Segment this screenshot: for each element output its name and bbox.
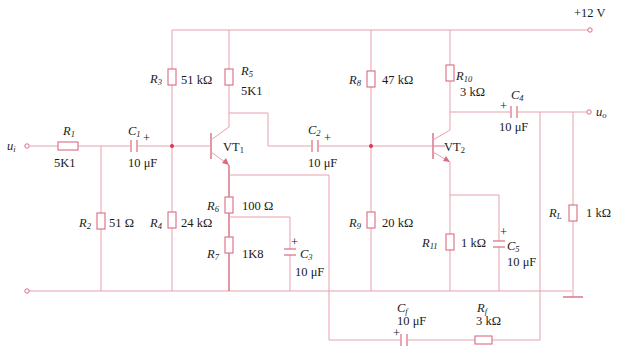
resistor-r7 bbox=[225, 237, 233, 253]
c2-plus: + bbox=[324, 131, 331, 145]
r2-value: 51 Ω bbox=[109, 216, 134, 230]
r10-value: 3 kΩ bbox=[460, 85, 485, 99]
c1-plus: + bbox=[143, 131, 150, 145]
resistor-r10 bbox=[446, 65, 454, 81]
rl-value: 1 kΩ bbox=[586, 206, 611, 220]
c3-name: C3 bbox=[300, 247, 313, 262]
resistor-rl bbox=[569, 205, 577, 221]
transistor-vt1 bbox=[200, 113, 229, 165]
supply-terminal bbox=[588, 28, 592, 32]
cf-plus: + bbox=[393, 326, 400, 340]
c4-value: 10 μF bbox=[499, 120, 528, 134]
junction-dot bbox=[170, 144, 174, 148]
r6-value: 100 Ω bbox=[242, 199, 273, 213]
capacitor-c4 bbox=[511, 106, 517, 118]
ground-terminal bbox=[25, 289, 29, 293]
resistor-r3 bbox=[168, 69, 176, 85]
c5-plus: + bbox=[500, 225, 507, 239]
cf-value: 10 μF bbox=[397, 314, 426, 328]
output-label: uo bbox=[596, 105, 607, 120]
r9-name: R9 bbox=[348, 216, 362, 231]
r7-value: 1K8 bbox=[242, 247, 264, 261]
c5-name: C5 bbox=[507, 239, 520, 254]
r11-value: 1 kΩ bbox=[461, 236, 486, 250]
wires bbox=[27, 30, 588, 340]
rf-value: 3 kΩ bbox=[476, 314, 501, 328]
input-terminal bbox=[25, 144, 29, 148]
c3-plus: + bbox=[291, 235, 298, 249]
capacitor-c5 bbox=[493, 241, 505, 247]
r4-value: 24 kΩ bbox=[181, 216, 212, 230]
circuit-schematic: +12 V ui uo R1 5K1 C1 + 10 μF R2 51 Ω R3… bbox=[0, 0, 621, 358]
r1-value: 5K1 bbox=[54, 156, 76, 170]
c1-name: C1 bbox=[128, 124, 141, 139]
r3-name: R3 bbox=[149, 72, 162, 87]
resistor-rf bbox=[475, 336, 492, 344]
rl-name: RL bbox=[548, 206, 562, 221]
r8-value: 47 kΩ bbox=[382, 73, 413, 87]
c4-plus: + bbox=[500, 99, 507, 113]
capacitor-cf bbox=[401, 334, 407, 346]
vt2-label: VT2 bbox=[444, 140, 465, 155]
output-terminal bbox=[587, 110, 591, 114]
r7-name: R7 bbox=[206, 247, 220, 262]
r2-name: R2 bbox=[78, 216, 92, 231]
resistor-r8 bbox=[367, 71, 375, 87]
vt1-label: VT1 bbox=[223, 140, 244, 155]
resistor-r6 bbox=[225, 197, 233, 213]
c1-value: 10 μF bbox=[128, 156, 157, 170]
c2-name: C2 bbox=[308, 123, 321, 138]
r11-name: R11 bbox=[421, 236, 438, 251]
input-label: ui bbox=[7, 139, 16, 154]
r8-name: R8 bbox=[348, 73, 362, 88]
resistor-r4 bbox=[168, 212, 176, 228]
r6-name: R6 bbox=[206, 199, 220, 214]
resistor-r2 bbox=[97, 213, 105, 229]
r5-name: R5 bbox=[240, 64, 253, 79]
r3-value: 51 kΩ bbox=[181, 73, 212, 87]
c3-value: 10 μF bbox=[295, 265, 324, 279]
capacitor-c2 bbox=[312, 140, 318, 152]
c2-value: 10 μF bbox=[308, 156, 337, 170]
supply-label: +12 V bbox=[574, 6, 605, 20]
r4-name: R4 bbox=[149, 216, 163, 231]
resistor-r9 bbox=[367, 212, 375, 228]
capacitor-c1 bbox=[131, 140, 137, 152]
r10-name: R10 bbox=[455, 69, 473, 84]
labels: +12 V ui uo R1 5K1 C1 + 10 μF R2 51 Ω R3… bbox=[7, 6, 611, 340]
r1-name: R1 bbox=[62, 124, 75, 139]
c4-name: C4 bbox=[511, 88, 524, 103]
c5-value: 10 μF bbox=[507, 255, 536, 269]
resistor-r1 bbox=[58, 142, 78, 150]
capacitor-c3 bbox=[284, 249, 296, 255]
r9-value: 20 kΩ bbox=[382, 216, 413, 230]
junction-dot bbox=[369, 144, 373, 148]
resistor-r5 bbox=[225, 69, 233, 85]
resistor-r11 bbox=[446, 234, 454, 250]
r5-value: 5K1 bbox=[241, 84, 263, 98]
